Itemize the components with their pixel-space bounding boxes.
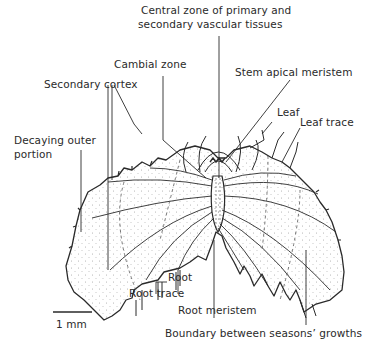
stem-section-diagram: Central zone of primary and secondary va… <box>0 0 372 353</box>
label-central-zone-2: secondary vascular tissues <box>138 18 282 31</box>
label-leaf: Leaf <box>277 106 300 119</box>
label-secondary-cortex: Secondary cortex <box>44 78 138 91</box>
label-root: Root <box>168 271 192 284</box>
label-central-zone-1: Central zone of primary and <box>141 4 291 17</box>
section-drawing <box>0 0 372 353</box>
label-stem-apical-meristem: Stem apical meristem <box>235 66 353 79</box>
label-cambial-zone: Cambial zone <box>114 58 187 71</box>
label-boundary: Boundary between seasons’ growths <box>165 327 362 340</box>
label-root-meristem: Root meristem <box>178 304 257 317</box>
label-decaying-outer-1: Decaying outer <box>14 134 96 147</box>
label-root-trace: Root trace <box>129 287 184 300</box>
label-decaying-outer-2: portion <box>14 148 52 161</box>
label-scale-bar: 1 mm <box>56 318 87 331</box>
label-leaf-trace: Leaf trace <box>300 116 354 129</box>
